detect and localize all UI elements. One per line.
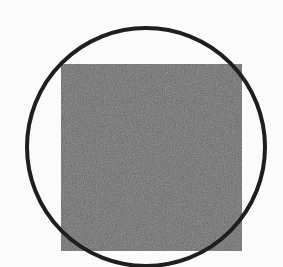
figure-canvas [0,0,283,267]
gray-square [61,64,242,251]
